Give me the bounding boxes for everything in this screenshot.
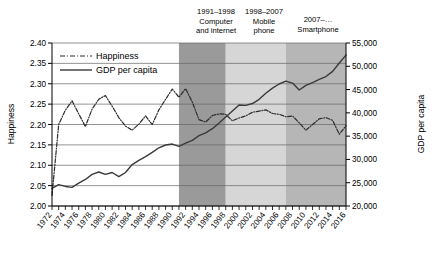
left-tick-label: 2.00 bbox=[30, 202, 46, 211]
left-axis-title: Happiness bbox=[6, 104, 16, 145]
left-tick-label: 2.35 bbox=[30, 59, 46, 68]
happiness-gdp-line-chart: 1991–1998Computerand internet1998–2007Mo… bbox=[0, 0, 436, 276]
right-tick-label: 50,000 bbox=[352, 62, 377, 71]
right-axis-title: GDP per capita bbox=[416, 94, 426, 153]
left-tick-label: 2.40 bbox=[30, 39, 46, 48]
annotation-label1-mobile-phone: Mobile bbox=[253, 17, 275, 26]
annotation-period-mobile-phone: 1998–2007 bbox=[245, 7, 283, 16]
right-tick-label: 55,000 bbox=[352, 39, 377, 48]
left-tick-label: 2.25 bbox=[30, 100, 46, 109]
annotation-label2-mobile-phone: phone bbox=[253, 26, 274, 35]
left-tick-label: 2.30 bbox=[30, 80, 46, 89]
chart-figure: 1991–1998Computerand internet1998–2007Mo… bbox=[0, 0, 436, 276]
left-tick-label: 2.10 bbox=[30, 161, 46, 170]
right-tick-label: 20,000 bbox=[352, 202, 377, 211]
annotation-label1-smartphone: Smartphone bbox=[297, 25, 338, 34]
right-tick-label: 45,000 bbox=[352, 86, 377, 95]
left-tick-label: 2.05 bbox=[30, 182, 46, 191]
left-tick-label: 2.20 bbox=[30, 121, 46, 130]
legend-label-happiness: Happiness bbox=[96, 51, 139, 61]
annotation-label1-computer-and-internet: Computer bbox=[199, 17, 233, 26]
annotation-label2-computer-and-internet: and internet bbox=[196, 26, 237, 35]
right-tick-label: 25,000 bbox=[352, 179, 377, 188]
right-tick-label: 35,000 bbox=[352, 132, 377, 141]
legend-label-gdp: GDP per capita bbox=[96, 65, 157, 75]
annotation-period-computer-and-internet: 1991–1998 bbox=[197, 7, 235, 16]
right-tick-label: 40,000 bbox=[352, 109, 377, 118]
left-tick-label: 2.15 bbox=[30, 141, 46, 150]
right-tick-label: 30,000 bbox=[352, 155, 377, 164]
annotation-period-smartphone: 2007–… bbox=[304, 15, 333, 24]
